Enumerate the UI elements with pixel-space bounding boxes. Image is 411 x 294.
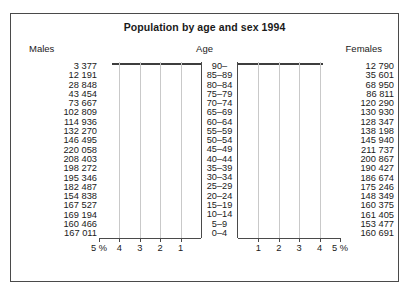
x-axis-tick-labels: 5 %432112345 % xyxy=(11,244,400,258)
axis-line xyxy=(238,238,340,239)
gridline xyxy=(279,62,280,238)
axis-tick-label-right: 5 % xyxy=(332,244,348,253)
axis-tick-label-left: 5 % xyxy=(91,244,107,253)
age-group-label: 0–4 xyxy=(202,229,237,238)
axis-tick xyxy=(181,238,182,242)
axis-tick xyxy=(99,238,100,242)
gridline xyxy=(299,62,300,238)
axis-tick xyxy=(160,238,161,242)
gridline xyxy=(320,62,321,238)
gridline xyxy=(181,62,182,238)
column-header-females: Females xyxy=(346,43,382,54)
females-value-column: 12 79035 60168 95086 811120 290130 93012… xyxy=(320,62,394,238)
axis-tick xyxy=(140,238,141,242)
chart-frame: Population by age and sex 1994 Males Age… xyxy=(10,13,399,282)
chart-title: Population by age and sex 1994 xyxy=(11,21,398,33)
axis-tick xyxy=(119,238,120,242)
axis-tick-label-left: 1 xyxy=(178,244,183,253)
column-header-age: Age xyxy=(11,43,398,54)
axis-tick-label-left: 3 xyxy=(137,244,142,253)
gridline xyxy=(258,62,259,238)
pyramid-plot: 3 37712 19128 84843 45473 667102 809114 … xyxy=(11,62,400,258)
axis-tick-label-left: 2 xyxy=(158,244,163,253)
axis-tick-label-right: 1 xyxy=(256,244,261,253)
axis-tick xyxy=(299,238,300,242)
gridline xyxy=(140,62,141,238)
males-value-column: 3 37712 19128 84843 45473 667102 809114 … xyxy=(19,62,97,238)
axis-tick xyxy=(320,238,321,242)
gridline xyxy=(160,62,161,238)
axis-tick xyxy=(279,238,280,242)
axis-tick-label-left: 4 xyxy=(117,244,122,253)
axis-tick-label-right: 4 xyxy=(317,244,322,253)
axis-tick-label-right: 3 xyxy=(297,244,302,253)
axis-line xyxy=(99,238,201,239)
age-group-column: 90–85–8980–8475–7970–7465–6960–6455–5950… xyxy=(201,62,238,238)
gridline xyxy=(119,62,120,238)
axis-tick xyxy=(340,238,341,242)
axis-tick xyxy=(258,238,259,242)
bar-male[interactable] xyxy=(134,63,201,65)
axis-tick-label-right: 2 xyxy=(276,244,281,253)
x-axis xyxy=(11,238,400,240)
bar-female[interactable] xyxy=(238,63,303,65)
males-bars-pane xyxy=(99,62,201,238)
